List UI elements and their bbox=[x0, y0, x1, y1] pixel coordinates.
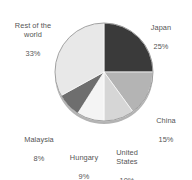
pie-label-hungary-value: 9% bbox=[62, 172, 106, 180]
pie-label-united-states-value: 10% bbox=[104, 176, 150, 180]
pie-chart: Rest of the world 33% Japan 25% China 15… bbox=[0, 0, 192, 180]
pie-label-malaysia-name: Malaysia bbox=[14, 135, 64, 144]
pie-label-japan: Japan 25% bbox=[134, 14, 188, 60]
pie-label-malaysia-value: 8% bbox=[14, 154, 64, 163]
pie-label-hungary-name: Hungary bbox=[62, 153, 106, 162]
pie-label-united-states: United States 10% bbox=[104, 139, 150, 180]
pie-label-malaysia: Malaysia 8% bbox=[14, 126, 64, 172]
pie-label-rest-of-the-world: Rest of the world 33% bbox=[2, 12, 64, 67]
pie-label-united-states-name: United States bbox=[104, 148, 150, 166]
pie-label-rest-of-the-world-name: Rest of the world bbox=[2, 21, 64, 39]
pie-label-japan-value: 25% bbox=[134, 42, 188, 51]
pie-label-china-name: China bbox=[142, 116, 190, 125]
pie-label-rest-of-the-world-value: 33% bbox=[2, 49, 64, 58]
pie-label-hungary: Hungary 9% bbox=[62, 144, 106, 180]
pie-label-japan-name: Japan bbox=[134, 23, 188, 32]
